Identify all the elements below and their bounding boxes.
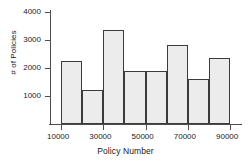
x-tick-mark: [61, 125, 62, 130]
y-axis-line: [50, 10, 51, 124]
histogram-bar: [188, 79, 209, 124]
histogram-bar: [61, 61, 82, 124]
histogram-bar: [167, 45, 188, 124]
x-tick-mark: [188, 125, 189, 130]
histogram-bar: [146, 71, 167, 124]
x-tick-label: 70000: [174, 133, 196, 141]
x-tick-label: 10000: [47, 133, 69, 141]
x-tick-mark: [146, 125, 147, 130]
histogram-bar: [103, 30, 124, 124]
x-tick-mark: [103, 125, 104, 130]
histogram-bar: [82, 90, 103, 124]
x-axis-title: Policy Number: [0, 146, 251, 156]
histogram-bar: [209, 58, 230, 124]
y-tick-label: 2000: [9, 64, 41, 72]
histogram-chart: # of Policies 1000200030004000 100003000…: [0, 0, 251, 164]
y-tick-label: 1000: [9, 92, 41, 100]
y-axis-title: # of Policies: [9, 8, 18, 98]
histogram-bar: [124, 71, 145, 124]
x-tick-label: 90000: [216, 133, 238, 141]
y-tick-label: 4000: [9, 8, 41, 16]
x-tick-label: 50000: [132, 133, 154, 141]
y-tick-label: 3000: [9, 36, 41, 44]
x-tick-label: 30000: [89, 133, 111, 141]
x-tick-mark: [230, 125, 231, 130]
